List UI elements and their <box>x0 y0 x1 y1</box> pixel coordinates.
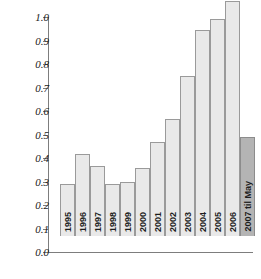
bar-column[interactable]: 2001 <box>150 0 165 236</box>
bar-column[interactable]: 2006 <box>225 0 240 236</box>
y-axis-tick-label: 0.5 <box>9 130 49 141</box>
x-axis-category-label: 2006 <box>225 212 240 232</box>
bar-column[interactable]: 2002 <box>165 0 180 236</box>
x-axis-baseline <box>48 252 253 253</box>
x-axis-category-label: 2001 <box>150 212 165 232</box>
y-axis-tick-label-row: 0.8 <box>0 64 49 65</box>
y-axis-tick-label: 0.6 <box>9 106 49 117</box>
y-axis-tick-label: 0.1 <box>9 224 49 235</box>
bar-column[interactable]: 2003 <box>180 0 195 236</box>
x-axis-category-label: 1997 <box>90 212 105 232</box>
y-axis-tick-label: 0.7 <box>9 83 49 94</box>
y-axis-tick-label-row: 0.7 <box>0 88 49 89</box>
bar[interactable] <box>195 30 210 236</box>
y-axis-tick-label-row: 0.2 <box>0 205 49 206</box>
bar-column[interactable]: 2007 til May <box>240 0 255 236</box>
y-axis-tick-label: 0.3 <box>9 177 49 188</box>
x-axis-category-label: 2002 <box>165 212 180 232</box>
bar-column[interactable]: 2004 <box>195 0 210 236</box>
bar-chart-figure: 1.00.90.80.70.60.50.40.30.20.10.0 199519… <box>0 0 261 279</box>
x-axis-category-label: 2007 til May <box>240 181 255 232</box>
y-axis-tick-label-row: 0.6 <box>0 111 49 112</box>
y-axis-tick-label-row: 0.5 <box>0 135 49 136</box>
y-axis-tick-label: 1.0 <box>9 12 49 23</box>
x-axis-category-label: 2003 <box>180 212 195 232</box>
y-axis-tick-label-row: 1.0 <box>0 17 49 18</box>
y-axis-tick-label-row: 0.9 <box>0 41 49 42</box>
bar-column[interactable]: 2005 <box>210 0 225 236</box>
x-axis-category-label: 1996 <box>75 212 90 232</box>
y-axis-tick-label: 0.2 <box>9 200 49 211</box>
y-axis-tick-label-row: 0.0 <box>0 252 49 253</box>
y-axis-tick-label: 0.8 <box>9 59 49 70</box>
y-axis-tick-label: 0.0 <box>9 247 49 258</box>
bar-column[interactable]: 1998 <box>105 0 120 236</box>
y-axis-tick-label-row: 0.4 <box>0 158 49 159</box>
bar[interactable] <box>225 1 240 236</box>
x-axis-category-label: 1999 <box>120 212 135 232</box>
x-axis-category-label: 1998 <box>105 212 120 232</box>
y-axis-tick-label: 0.4 <box>9 153 49 164</box>
bar-column[interactable]: 2000 <box>135 0 150 236</box>
bar-column[interactable]: 1995 <box>60 0 75 236</box>
x-axis-category-label: 1995 <box>60 212 75 232</box>
y-axis-tick-label-row: 0.3 <box>0 182 49 183</box>
bar[interactable] <box>210 19 225 236</box>
y-axis-tick-label: 0.9 <box>9 36 49 47</box>
bar-column[interactable]: 1997 <box>90 0 105 236</box>
bar-series-group: 1995199619971998199920002001200220032004… <box>60 0 255 236</box>
x-axis-category-label: 2000 <box>135 212 150 232</box>
y-axis-tick-label-row: 0.1 <box>0 229 49 230</box>
bar-column[interactable]: 1999 <box>120 0 135 236</box>
bar-column[interactable]: 1996 <box>75 0 90 236</box>
x-axis-category-label: 2005 <box>210 212 225 232</box>
x-axis-category-label: 2004 <box>195 212 210 232</box>
